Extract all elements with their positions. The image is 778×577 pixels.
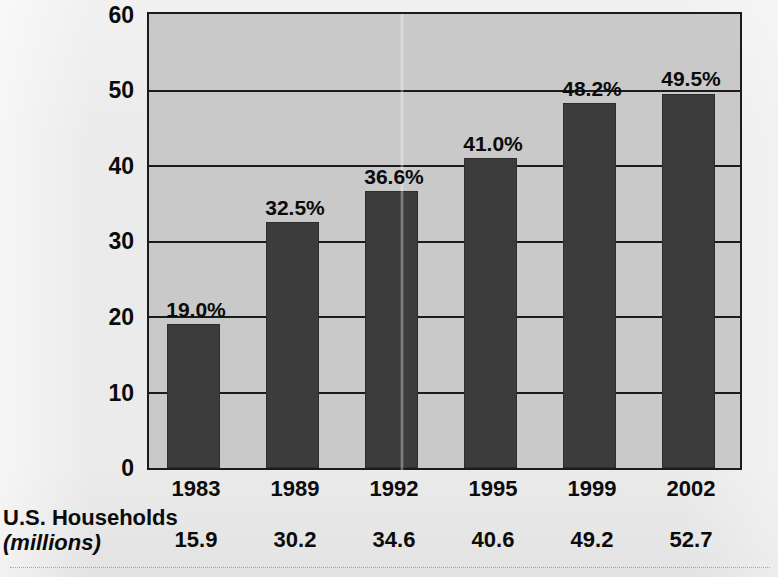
households-value-1992: 34.6: [339, 527, 449, 553]
gridline-10: [149, 392, 740, 394]
bar-1992[interactable]: [365, 191, 418, 468]
households-value-1989: 30.2: [240, 527, 350, 553]
bar-value-label-1999: 48.2%: [537, 77, 647, 101]
bar-1983[interactable]: [167, 324, 220, 468]
y-axis-label-60: 60: [14, 2, 134, 29]
y-axis-label-30: 30: [14, 228, 134, 255]
bar-value-label-2002: 49.5%: [636, 67, 746, 91]
page-bottom-rule: [10, 567, 770, 568]
x-axis-label-1989: 1989: [240, 476, 350, 502]
bar-value-label-1992: 36.6%: [339, 165, 449, 189]
bar-1999[interactable]: [563, 103, 616, 468]
y-axis-label-50: 50: [14, 77, 134, 104]
y-axis-label-0: 0: [14, 455, 134, 482]
bar-value-label-1989: 32.5%: [240, 196, 350, 220]
x-axis-label-1995: 1995: [438, 476, 548, 502]
y-axis-label-40: 40: [14, 153, 134, 180]
households-row-subtitle: (millions): [3, 530, 101, 556]
y-axis-label-10: 10: [14, 380, 134, 407]
bar-value-label-1983: 19.0%: [141, 298, 251, 322]
households-value-1983: 15.9: [141, 527, 251, 553]
x-axis-label-2002: 2002: [636, 476, 746, 502]
x-axis-label-1999: 1999: [537, 476, 647, 502]
x-axis-label-1992: 1992: [339, 476, 449, 502]
bar-2002[interactable]: [662, 94, 715, 468]
y-axis-label-20: 20: [14, 304, 134, 331]
bar-1989[interactable]: [266, 222, 319, 468]
gridline-30: [149, 241, 740, 243]
households-value-1995: 40.6: [438, 527, 548, 553]
bar-chart: 60 50 40 30 20 10 0 19.0% 32.5% 36.6% 41…: [0, 0, 778, 577]
x-axis-label-1983: 1983: [141, 476, 251, 502]
bar-value-label-1995: 41.0%: [438, 132, 548, 156]
bar-1995[interactable]: [464, 158, 517, 468]
households-value-1999: 49.2: [537, 527, 647, 553]
households-value-2002: 52.7: [636, 527, 746, 553]
